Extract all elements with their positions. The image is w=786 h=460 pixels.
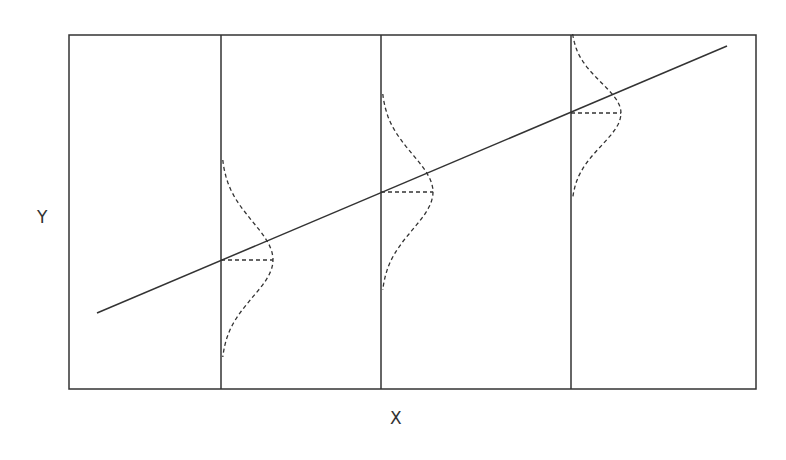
- normal-distribution-curves: [223, 34, 621, 357]
- regression-diagram: [0, 0, 786, 460]
- x-axis-label: X: [390, 410, 402, 427]
- regression-line: [97, 46, 727, 313]
- y-axis-label: Y: [37, 209, 47, 226]
- normal-curve-3: [573, 34, 621, 198]
- x-value-lines: [221, 35, 571, 389]
- normal-curve-1: [223, 160, 273, 357]
- mean-markers: [221, 113, 621, 260]
- plot-frame: [69, 35, 756, 389]
